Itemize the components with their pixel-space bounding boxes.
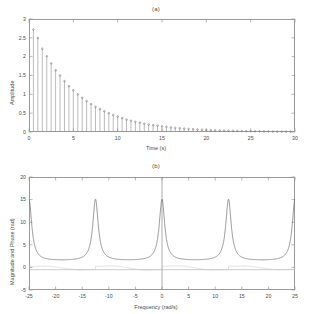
panel-b-ytick-label: 0 [4, 264, 26, 270]
panel-b-ytick-label: 15 [4, 196, 26, 202]
panel-b-xtick-label: -15 [72, 293, 92, 299]
panel-a-xtick-label: 10 [108, 135, 128, 141]
panel-a-xtick-label: 0 [19, 135, 39, 141]
panel-a-ytick-label: 3 [4, 16, 26, 22]
panel-a-xtick-label: 15 [152, 135, 172, 141]
panel-b-canvas [0, 157, 312, 314]
panel-a-xtick-label: 20 [196, 135, 216, 141]
panel-a-xtick-label: 5 [63, 135, 83, 141]
panel-b-xtick-label: 0 [152, 293, 172, 299]
panel-a-ytick-label: 2 [4, 53, 26, 59]
panel-a-canvas [0, 0, 312, 157]
panel-a-xtick-label: 30 [285, 135, 305, 141]
panel-b-xtick-label: 25 [285, 293, 305, 299]
panel-b-ytick-label: 10 [4, 219, 26, 225]
subplot-a: (a) Amplitude Time (s) 00.511.522.530510… [0, 0, 312, 157]
panel-b-xtick-label: -25 [19, 293, 39, 299]
panel-b-xtick-label: 10 [205, 293, 225, 299]
panel-a-ytick-label: 0 [4, 129, 26, 135]
panel-a-ytick-label: 1.5 [4, 72, 26, 78]
panel-b-xtick-label: -10 [99, 293, 119, 299]
stem-series [33, 29, 292, 133]
panel-b-ytick-label: -5 [4, 287, 26, 293]
panel-b-xtick-label: -5 [125, 293, 145, 299]
panel-b-ytick-label: 20 [4, 174, 26, 180]
panel-a-ytick-label: 0.5 [4, 110, 26, 116]
panel-b-xtick-label: 20 [258, 293, 278, 299]
matlab-figure: (a) Amplitude Time (s) 00.511.522.530510… [0, 0, 312, 314]
panel-b-ytick-label: 5 [4, 242, 26, 248]
panel-b-xtick-label: 15 [232, 293, 252, 299]
panel-a-xtick-label: 25 [241, 135, 261, 141]
panel-b-xtick-label: 5 [179, 293, 199, 299]
subplot-b: (b) Magnitude and Phase (rad) Frequency … [0, 157, 312, 314]
panel-b-xtick-label: -20 [46, 293, 66, 299]
panel-a-ytick-label: 1 [4, 91, 26, 97]
panel-a-ytick-label: 2.5 [4, 35, 26, 41]
